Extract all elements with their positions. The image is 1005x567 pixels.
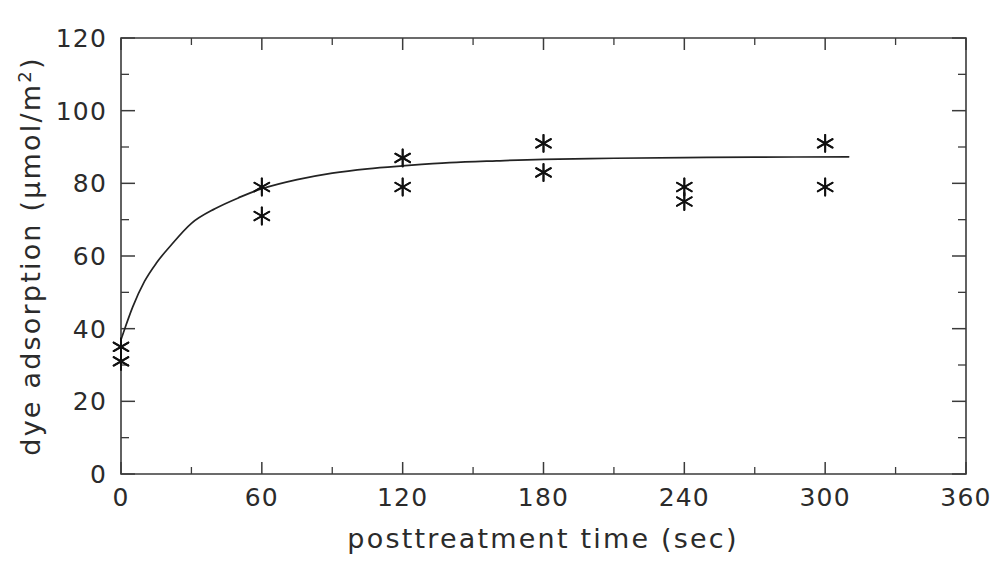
x-axis-minor-ticks (191, 38, 895, 474)
fitted-curve (121, 157, 849, 340)
data-point-asterisk (536, 135, 551, 152)
x-tick-label: 120 (377, 483, 428, 512)
scatter-plot-svg: 060120180240300360 020406080100120 postt… (0, 0, 1005, 567)
data-point-asterisk (536, 164, 551, 181)
y-axis-major-ticks (121, 38, 966, 474)
data-point-asterisk (818, 178, 833, 195)
data-point-markers (114, 135, 833, 370)
x-tick-label: 300 (800, 483, 851, 512)
data-point-asterisk (114, 353, 129, 370)
x-tick-label: 0 (112, 483, 129, 512)
y-axis-minor-ticks (121, 74, 966, 437)
y-tick-label: 60 (73, 242, 107, 271)
data-point-asterisk (254, 208, 269, 225)
y-tick-label: 40 (73, 315, 107, 344)
x-tick-label: 240 (659, 483, 710, 512)
y-axis-title: dye adsorption (μmol/m2) (14, 56, 46, 455)
chart-figure: 060120180240300360 020406080100120 postt… (0, 0, 1005, 567)
plot-frame (121, 38, 966, 474)
x-tick-label: 180 (518, 483, 569, 512)
data-point-asterisk (677, 193, 692, 210)
data-point-asterisk (395, 149, 410, 166)
y-tick-label: 120 (56, 24, 107, 53)
data-point-asterisk (818, 135, 833, 152)
y-axis-tick-labels: 020406080100120 (56, 24, 107, 489)
x-tick-label: 60 (245, 483, 279, 512)
x-axis-major-ticks (121, 38, 966, 474)
data-point-asterisk (395, 178, 410, 195)
axis-frame (121, 38, 966, 474)
y-axis-title-group: dye adsorption (μmol/m2) (14, 56, 46, 455)
fit-curve-group (121, 157, 849, 340)
x-tick-label: 360 (940, 483, 991, 512)
y-tick-label: 20 (73, 387, 107, 416)
y-tick-label: 100 (56, 97, 107, 126)
y-tick-label: 80 (73, 169, 107, 198)
y-tick-label: 0 (90, 460, 107, 489)
x-axis-title: posttreatment time (sec) (347, 523, 738, 554)
x-axis-tick-labels: 060120180240300360 (112, 483, 991, 512)
